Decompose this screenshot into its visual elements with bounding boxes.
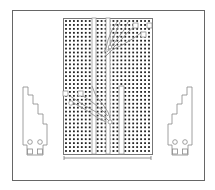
hole [65,24,67,26]
hole [113,71,115,73]
hole [144,71,146,73]
hole [81,52,83,54]
hole [97,40,99,42]
hole [73,91,75,93]
hole [140,150,142,152]
hole [73,115,75,117]
hole [140,91,142,93]
hole [132,52,134,54]
hole [81,134,83,136]
hole [85,119,87,121]
hole [148,146,150,148]
hole [144,126,146,128]
hole [85,83,87,85]
hole [97,138,99,140]
hole [85,142,87,144]
hole [89,146,91,148]
hole [73,36,75,38]
hole [140,119,142,121]
hole [65,142,67,144]
hole [116,146,118,148]
hole [148,36,150,38]
hole [124,56,126,58]
hole [136,67,138,69]
hole [81,56,83,58]
hole [136,52,138,54]
hole [81,20,83,22]
hole [124,126,126,128]
hole [132,83,134,85]
hole [113,95,115,97]
hole [101,52,103,54]
hole [77,142,79,144]
hole [136,95,138,97]
hole [69,52,71,54]
hole [148,138,150,140]
hole [73,126,75,128]
hole [85,36,87,38]
hole [128,63,130,65]
hole [116,67,118,69]
hole [73,138,75,140]
hole [89,36,91,38]
hole [144,119,146,121]
hole [101,138,103,140]
hole [89,71,91,73]
hole [124,99,126,101]
hole [132,99,134,101]
hole [101,111,103,113]
hole [101,134,103,136]
hole [132,71,134,73]
hole [97,83,99,85]
hole [132,48,134,50]
hole [89,67,91,69]
hole [65,138,67,140]
hole [148,150,150,152]
hole [101,75,103,77]
hole [136,56,138,58]
hole [140,48,142,50]
hole [85,63,87,65]
hole [148,20,150,22]
hole [113,63,115,65]
hole [128,28,130,30]
hole [124,146,126,148]
hole [69,67,71,69]
hole [148,71,150,73]
hole [140,138,142,140]
hole [132,146,134,148]
hole [85,20,87,22]
hole [132,36,134,38]
hole [140,20,142,22]
hole [148,83,150,85]
hole [144,75,146,77]
hole [97,126,99,128]
hole [69,32,71,34]
hole [85,95,87,97]
hole [144,115,146,117]
hole [148,134,150,136]
cut-strip [106,18,110,154]
hole [136,146,138,148]
hole [124,119,126,121]
hole [113,79,115,81]
hole [85,87,87,89]
hole [144,48,146,50]
hole [81,119,83,121]
hole [101,87,103,89]
hole [89,119,91,121]
hole [85,75,87,77]
hole [128,130,130,132]
hole [81,40,83,42]
hole [116,32,118,34]
hole [144,138,146,140]
hole [128,36,130,38]
hole [116,103,118,105]
hole [77,146,79,148]
hole [65,59,67,61]
hole [69,75,71,77]
hole [65,83,67,85]
hole [89,28,91,30]
hole [113,138,115,140]
hole [144,111,146,113]
